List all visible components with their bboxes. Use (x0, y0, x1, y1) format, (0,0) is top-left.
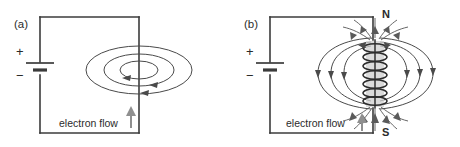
field-arrow-left-outer-b (315, 70, 321, 78)
magnetic-field-loops-right-b (380, 38, 436, 109)
south-pole-label-b: S (382, 126, 389, 138)
field-lines-north-pole-b (343, 18, 408, 40)
flow-arrow-head-a (126, 106, 136, 116)
field-arrow-middle-a (149, 82, 158, 88)
electron-flow-label-a: electron flow (59, 117, 118, 129)
battery-symbol-a (26, 63, 54, 70)
battery-minus-sign-a: − (16, 68, 24, 83)
battery-plus-sign-b: + (246, 44, 254, 59)
field-arrow-right-middle-b (417, 69, 423, 77)
field-arrow-right-outer-b (430, 68, 436, 76)
field-arrow-inner-a (122, 75, 131, 81)
field-arrow-left-middle-b (328, 71, 334, 79)
electron-flow-arrow-b (357, 113, 367, 131)
battery-symbol-b (256, 63, 284, 70)
figure-root: (a) + − ele (0, 0, 460, 147)
electron-flow-label-b: electron flow (286, 117, 345, 129)
field-arrow-n-l1-b (360, 26, 367, 34)
field-arrow-right-inner-b (404, 70, 410, 78)
electron-flow-arrow-a (126, 106, 136, 128)
field-arrow-n-r2-b (393, 32, 400, 40)
field-arrow-left-inner-b (341, 72, 347, 80)
field-arrow-s-r2-b (393, 112, 401, 121)
field-arrow-n-l2-b (350, 32, 357, 40)
battery-minus-sign-b: − (246, 68, 254, 83)
battery-plus-sign-a: + (16, 44, 24, 59)
panel-a-label: (a) (14, 18, 28, 30)
field-line-s-l2-b (343, 107, 370, 121)
solenoid-coil-b (358, 40, 391, 108)
panel-b-solenoid: (b) + − (230, 0, 460, 147)
field-arrow-outer-a (140, 90, 149, 96)
field-arrow-s-r1-b (382, 115, 390, 124)
panel-a-straight-wire: (a) + − ele (0, 0, 230, 147)
panel-b-label: (b) (244, 18, 258, 30)
field-lines-south-pole-b (343, 107, 408, 131)
north-pole-label-b: N (382, 8, 390, 20)
